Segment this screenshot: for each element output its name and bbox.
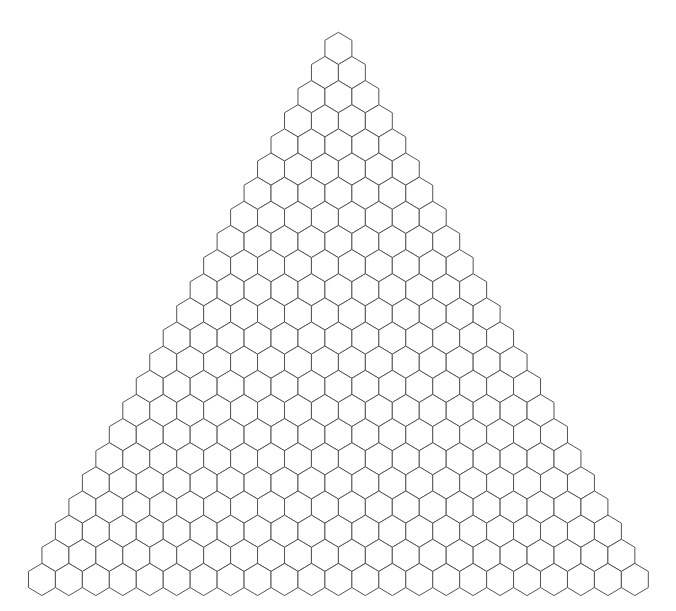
hex-grid: [28, 32, 648, 595]
hex-triangle-diagram: [0, 0, 676, 611]
